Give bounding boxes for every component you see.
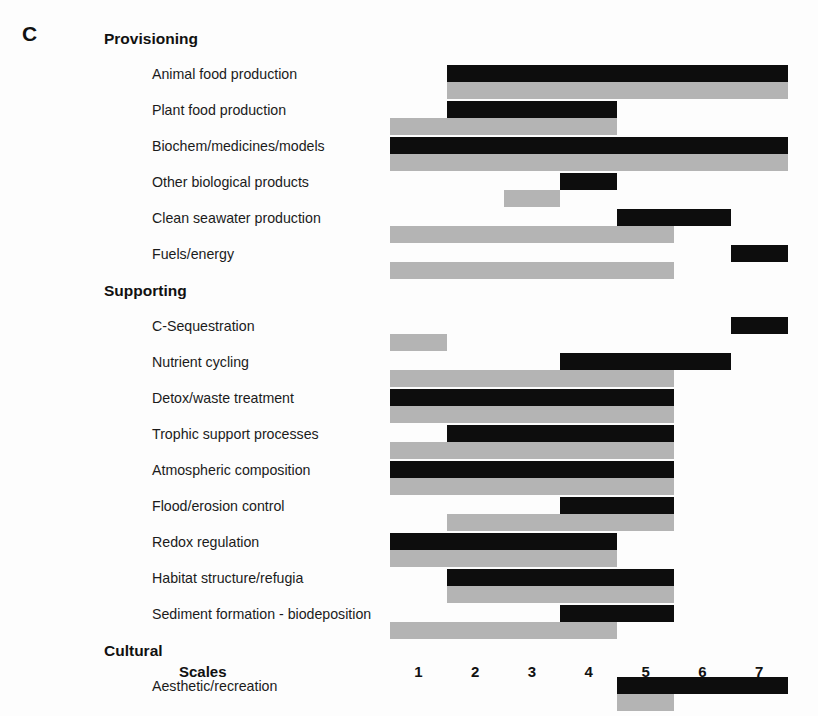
row-label: Other biological products — [152, 174, 309, 190]
bar-gray — [390, 622, 617, 639]
axis-title: Scales — [179, 663, 227, 680]
axis-tick-label: 2 — [471, 663, 479, 680]
chart-row: Redox regulation — [0, 534, 818, 570]
chart-row: Biochem/medicines/models — [0, 138, 818, 174]
bar-black — [560, 173, 617, 190]
row-label: Atmospheric composition — [152, 462, 311, 478]
bar-gray — [390, 154, 788, 171]
chart-row: Clean seawater production — [0, 210, 818, 246]
bar-black — [617, 209, 731, 226]
group-label: Cultural — [104, 642, 163, 660]
chart-row: Flood/erosion control — [0, 498, 818, 534]
bar-black — [447, 569, 674, 586]
group-label: Supporting — [104, 282, 187, 300]
bar-gray — [390, 550, 617, 567]
row-label: Habitat structure/refugia — [152, 570, 303, 586]
bar-black — [447, 65, 788, 82]
chart-row: Fuels/energy — [0, 246, 818, 282]
row-label: Nutrient cycling — [152, 354, 249, 370]
chart-panel: C ProvisioningAnimal food productionPlan… — [0, 0, 818, 716]
chart-row: Detox/waste treatment — [0, 390, 818, 426]
row-label: Fuels/energy — [152, 246, 234, 262]
bar-gray — [447, 514, 674, 531]
axis-tick-label: 4 — [585, 663, 593, 680]
bar-gray — [390, 118, 617, 135]
chart-row: Atmospheric composition — [0, 462, 818, 498]
bar-gray — [390, 442, 674, 459]
bar-gray — [390, 262, 674, 279]
row-label: C-Sequestration — [152, 318, 255, 334]
chart-row: Animal food production — [0, 66, 818, 102]
group-heading-row: Supporting — [0, 282, 818, 318]
bar-gray — [390, 370, 674, 387]
row-label: Trophic support processes — [152, 426, 319, 442]
chart-row: C-Sequestration — [0, 318, 818, 354]
row-label: Flood/erosion control — [152, 498, 285, 514]
row-label: Biochem/medicines/models — [152, 138, 325, 154]
x-axis: Scales 1234567 — [0, 663, 818, 689]
chart-row: Trophic support processes — [0, 426, 818, 462]
group-label: Provisioning — [104, 30, 198, 48]
bar-gray — [447, 586, 674, 603]
axis-tick-label: 7 — [755, 663, 763, 680]
bar-black — [390, 533, 617, 550]
axis-tick-label: 5 — [641, 663, 649, 680]
group-heading-row: Provisioning — [0, 30, 818, 66]
row-label: Redox regulation — [152, 534, 259, 550]
row-label: Plant food production — [152, 102, 286, 118]
bar-black — [390, 137, 788, 154]
bar-gray — [390, 226, 674, 243]
row-label: Animal food production — [152, 66, 297, 82]
chart-row: Other biological products — [0, 174, 818, 210]
chart-row: Sediment formation - biodeposition — [0, 606, 818, 642]
bar-black — [390, 461, 674, 478]
bar-gray — [617, 694, 674, 711]
chart-row: Habitat structure/refugia — [0, 570, 818, 606]
bar-gray — [390, 406, 674, 423]
bar-black — [447, 101, 617, 118]
bar-black — [560, 353, 730, 370]
bar-gray — [447, 82, 788, 99]
axis-tick-label: 3 — [528, 663, 536, 680]
bar-black — [560, 497, 674, 514]
bar-gray — [390, 478, 674, 495]
bar-black — [447, 425, 674, 442]
chart-row: Plant food production — [0, 102, 818, 138]
axis-tick-label: 6 — [698, 663, 706, 680]
row-label: Sediment formation - biodeposition — [152, 606, 371, 622]
row-label: Detox/waste treatment — [152, 390, 294, 406]
row-label: Clean seawater production — [152, 210, 321, 226]
chart-row: Nutrient cycling — [0, 354, 818, 390]
bar-black — [560, 605, 674, 622]
bar-gray — [390, 334, 447, 351]
bar-gray — [504, 190, 561, 207]
bar-black — [731, 245, 788, 262]
bar-black — [731, 317, 788, 334]
bar-black — [390, 389, 674, 406]
axis-tick-label: 1 — [414, 663, 422, 680]
